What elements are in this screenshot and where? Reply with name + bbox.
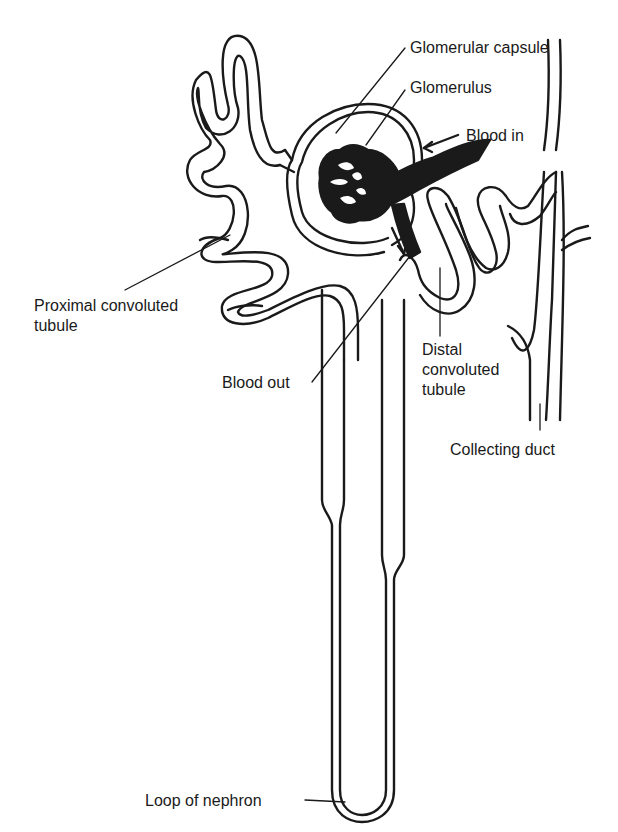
label-blood-out: Blood out [222,373,290,393]
label-collecting-duct: Collecting duct [450,440,555,460]
leader-blood-out [312,256,410,382]
label-distal-convoluted-tubule: Distal convoluted tubule [422,340,499,400]
label-blood-in: Blood in [466,126,524,146]
label-proximal-convoluted-tubule: Proximal convoluted tubule [34,296,178,336]
label-glomerular-capsule: Glomerular capsule [410,38,549,58]
nephron-illustration [0,0,618,832]
distal-convoluted-tubule-drawing [400,172,556,314]
loop-of-nephron-drawing [322,290,404,822]
leader-glomerulus [366,90,405,145]
label-glomerulus: Glomerulus [410,78,492,98]
nephron-diagram: Glomerular capsule Glomerulus Blood in P… [0,0,618,832]
leader-loop [305,800,345,802]
collecting-duct-drawing [508,40,590,420]
label-loop-of-nephron: Loop of nephron [145,791,262,811]
